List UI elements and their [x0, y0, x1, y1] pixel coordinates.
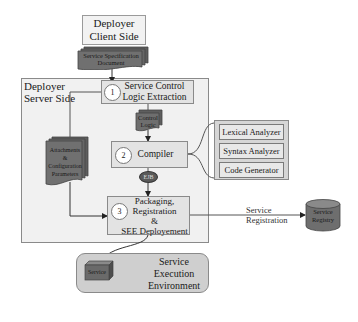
- control-logic-document-label: Control Logic: [134, 114, 162, 128]
- code-generator: Code Generator: [219, 162, 284, 178]
- see-label: Service Execution Environment: [140, 256, 208, 292]
- ejb-artifact: EJB: [139, 171, 158, 183]
- step1-number-badge: 1: [104, 84, 121, 101]
- deployer-client-side-box: Deployer Client Side: [82, 15, 146, 45]
- lexical-analyzer: Lexical Analyzer: [219, 124, 284, 140]
- service-spec-document-label: Service Specification Document: [78, 52, 144, 66]
- service-component-label: Service: [85, 269, 109, 276]
- step3-number-badge: 3: [111, 203, 128, 220]
- service-registry-label: Service Registry: [305, 208, 341, 224]
- line-step1-to-attachments: [70, 92, 101, 140]
- step2-number-badge: 2: [115, 147, 132, 164]
- attachments-document-label: Attachments & Configuration Parameters: [46, 146, 84, 178]
- syntax-analyzer: Syntax Analyzer: [219, 143, 284, 159]
- service-registration-label: Service Registration: [246, 205, 288, 225]
- compiler-components-group: Lexical Analyzer Syntax Analyzer Code Ge…: [214, 120, 289, 180]
